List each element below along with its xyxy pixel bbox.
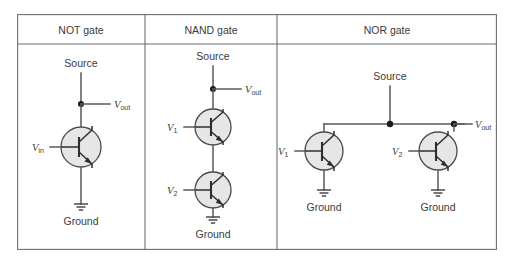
- nor-ground-symbol-1: [317, 190, 331, 196]
- nor-source-junction-dot: [387, 121, 393, 127]
- not-ground-symbol: [74, 204, 88, 210]
- circuit-diagram-svg: NOT gate NAND gate NOR gate Source Vout: [17, 14, 497, 250]
- nor-v1-subscript: 1: [284, 151, 288, 158]
- nor-v2-label: V2: [392, 146, 402, 159]
- nand-v1-label: V1: [167, 122, 177, 135]
- gate-table: NOT gate NAND gate NOR gate Source Vout: [17, 14, 497, 250]
- column-header-nor: NOR gate: [364, 24, 411, 36]
- figure-canvas: NOT gate NAND gate NOR gate Source Vout: [0, 0, 513, 264]
- nand-v1-subscript: 1: [173, 127, 177, 134]
- nor-vout-subscript: out: [481, 124, 491, 131]
- nor-source-label: Source: [373, 70, 406, 82]
- nor-v1-label: V1: [278, 146, 288, 159]
- not-vin-label: Vin: [32, 142, 44, 155]
- nor-gate-circuit: Source Vout: [278, 70, 491, 213]
- nand-ground-symbol: [206, 217, 220, 223]
- not-gate-circuit: Source Vout: [32, 57, 130, 227]
- column-header-not: NOT gate: [58, 24, 103, 36]
- nor-ground-label-2: Ground: [420, 201, 455, 213]
- nor-ground-label-1: Ground: [306, 201, 341, 213]
- nand-v2-subscript: 2: [173, 190, 177, 197]
- not-vout-label: Vout: [114, 99, 130, 112]
- not-source-label: Source: [64, 57, 97, 69]
- nand-ground-label: Ground: [195, 228, 230, 240]
- column-header-nand: NAND gate: [184, 24, 237, 36]
- nand-v2-label: V2: [167, 185, 177, 198]
- nand-vout-label: Vout: [245, 84, 261, 97]
- nor-vout-label: Vout: [475, 119, 491, 132]
- nor-ground-symbol-2: [431, 190, 445, 196]
- not-vin-subscript: in: [38, 147, 44, 154]
- not-ground-label: Ground: [63, 215, 98, 227]
- nand-gate-circuit: Source Vout V1: [167, 50, 261, 240]
- not-vout-subscript: out: [120, 104, 130, 111]
- nand-vout-subscript: out: [251, 89, 261, 96]
- nand-source-label: Source: [196, 50, 229, 62]
- nor-v2-subscript: 2: [398, 151, 402, 158]
